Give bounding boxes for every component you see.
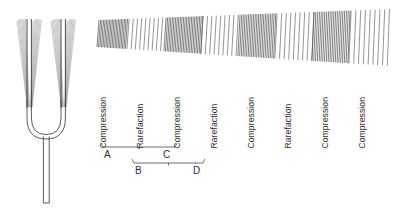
bracket-letter-b: B [135,166,142,176]
wavelength-brackets: ACBD [0,0,401,216]
bracket-letter-a: A [104,150,111,160]
bracket-letter-d: D [193,166,200,176]
brackets-svg [0,0,401,216]
bracket-letter-c: C [163,150,170,160]
tuning-fork-wave-figure: CompressionRarefactionCompressionRarefac… [0,0,401,216]
